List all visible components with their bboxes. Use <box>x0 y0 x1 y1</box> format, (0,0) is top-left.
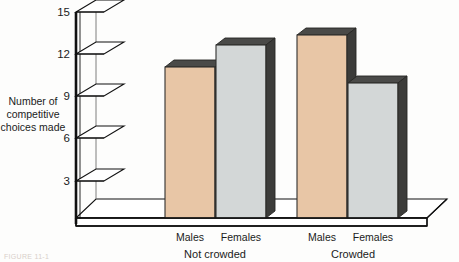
bar-front-face <box>165 67 215 218</box>
y-tick-9 <box>76 84 124 96</box>
y-tick-label-15: 15 <box>57 6 70 18</box>
bar-not-crowded-females <box>216 38 275 218</box>
figure-caption: FIGURE 11-1 <box>4 253 49 260</box>
bar-crowded-males <box>297 28 356 218</box>
figure-container: 15 12 9 6 3 <box>0 0 459 262</box>
bar-front-face <box>216 45 266 218</box>
bar-front-face <box>348 83 398 218</box>
bar-front-face <box>297 35 347 218</box>
y-tick-label-9: 9 <box>64 90 70 102</box>
y-tick-label-3: 3 <box>64 175 70 187</box>
y-tick-15 <box>76 0 124 12</box>
bar-top-face <box>216 38 275 45</box>
y-axis: 15 12 9 6 3 <box>57 0 124 224</box>
cat-label-not-crowded-males: Males <box>176 231 204 243</box>
y-tick-label-12: 12 <box>57 48 70 60</box>
bar-not-crowded-males <box>165 60 224 218</box>
bar-top-face <box>348 76 407 83</box>
y-axis-title-line-1: Number of <box>8 95 57 107</box>
y-tick-3 <box>76 169 124 181</box>
y-axis-title-line-3: choices made <box>1 121 66 133</box>
cat-label-not-crowded-females: Females <box>221 231 261 243</box>
cat-label-crowded-females: Females <box>353 231 393 243</box>
y-tick-12 <box>76 42 124 54</box>
y-axis-title: Number of competitive choices made <box>1 95 66 133</box>
bar-top-face <box>297 28 356 35</box>
y-tick-6 <box>76 126 124 138</box>
y-tick-label-6: 6 <box>64 132 70 144</box>
cat-label-crowded-males: Males <box>308 231 336 243</box>
bar-crowded-females <box>348 76 407 218</box>
bar-top-face <box>165 60 224 67</box>
bar-chart-svg: 15 12 9 6 3 <box>0 0 459 262</box>
y-axis-title-line-2: competitive <box>6 108 59 120</box>
floor-front-face <box>76 218 427 226</box>
group-label-not-crowded: Not crowded <box>184 248 246 260</box>
group-label-crowded: Crowded <box>331 248 375 260</box>
bar-side-face <box>266 38 275 218</box>
bar-side-face <box>398 76 407 218</box>
